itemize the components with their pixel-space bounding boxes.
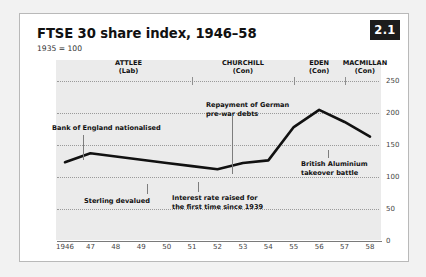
figure-number-badge: 2.1 xyxy=(370,20,400,40)
annotation-interest-rate: Interest rate raised forthe first time s… xyxy=(172,194,263,211)
annotation-leader-line-british-aluminium xyxy=(328,150,329,158)
annotation-line-1: British Aluminium xyxy=(301,160,368,169)
annotation-leader-line-interest-rate xyxy=(198,182,199,192)
annotation-sterling-devalued: Sterling devalued xyxy=(84,197,150,206)
chart-plot-area: 0501001502002501946474849505152535455565… xyxy=(20,14,410,263)
annotation-line-1: Sterling devalued xyxy=(84,197,150,206)
annotation-bank-of-england: Bank of England nationalised xyxy=(52,124,161,133)
annotation-line-1: Repayment of German xyxy=(206,101,289,110)
annotation-leader-line-bank-of-england xyxy=(83,135,84,160)
annotation-british-aluminium: British Aluminiumtakeover battle xyxy=(301,160,368,177)
annotation-line-2: the first time since 1939 xyxy=(172,203,263,212)
annotation-german-debts: Repayment of Germanpre-war debts xyxy=(206,101,289,118)
series-line-ftse-30-share-index xyxy=(20,14,410,263)
annotation-leader-line-german-debts xyxy=(232,115,233,174)
figure-card: 2.1 FTSE 30 share index, 1946–58 1935 = … xyxy=(19,13,409,262)
annotation-line-2: takeover battle xyxy=(301,169,368,178)
page-background: 2.1 FTSE 30 share index, 1946–58 1935 = … xyxy=(0,0,426,277)
annotation-line-1: Bank of England nationalised xyxy=(52,124,161,133)
annotation-line-1: Interest rate raised for xyxy=(172,194,263,203)
annotation-line-2: pre-war debts xyxy=(206,110,289,119)
annotation-leader-line-sterling-devalued xyxy=(147,184,148,194)
